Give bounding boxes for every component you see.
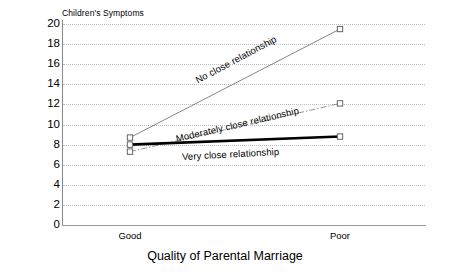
- data-point-marker: [337, 26, 342, 31]
- chart-container: Children's Symptoms 20181614121086420 Go…: [0, 0, 450, 279]
- data-point-marker: [337, 101, 342, 106]
- data-point-marker: [337, 134, 342, 139]
- x-axis-tick-label: Good: [118, 230, 141, 241]
- data-point-marker: [127, 135, 132, 140]
- x-axis-title: Quality of Parental Marriage: [0, 249, 450, 263]
- data-point-marker: [127, 149, 132, 154]
- series-layer: [0, 0, 450, 279]
- x-axis-tick-label: Poor: [330, 230, 350, 241]
- series-line: [130, 137, 340, 145]
- data-point-marker: [127, 142, 132, 147]
